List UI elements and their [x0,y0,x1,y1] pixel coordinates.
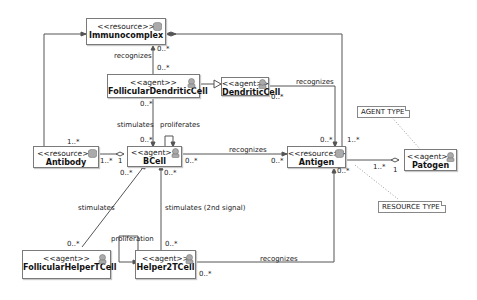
association-label: recognizes [229,146,267,154]
class-name: FollicularDendriticCell [108,87,199,97]
multiplicity: 0..* [165,240,177,248]
association-label: recognizes [296,78,334,86]
multiplicity: 1 [393,166,397,174]
database-icon [153,22,162,31]
agent-icon [185,254,194,264]
class-follicular-helper-t-cell[interactable]: <<agent>> FollicularHelperTCell [22,250,111,279]
database-icon [88,149,97,158]
class-antibody[interactable]: <<resource>> Antibody [33,146,99,168]
multiplicity: 0..* [157,45,169,53]
class-follicular-dendritic-cell[interactable]: <<agent>> FollicularDendriticCell [107,74,200,98]
stereotype: <<agent>> [23,254,110,263]
multiplicity: 0..* [199,270,211,278]
class-name: Helper2TCell [136,263,195,273]
class-dendritic-cell[interactable]: <<agent>> DendriticCell [221,77,269,96]
association-label: stimulates [117,121,154,129]
class-helper2-t-cell[interactable]: <<agent>> Helper2TCell [135,250,196,279]
multiplicity: 0..* [164,169,176,177]
class-name: Antibody [34,158,98,168]
association-label: recognizes [260,255,298,263]
multiplicity: 1..* [347,136,359,144]
note-agent-type: AGENT TYPE [357,106,410,118]
class-name: Patogen [405,161,456,171]
agent-icon [258,79,267,89]
note-resource-type: RESOURCE TYPE [378,201,446,213]
multiplicity: 0..* [67,240,79,248]
class-antigen[interactable]: <<resource>> Antigen [287,146,346,168]
stereotype: <<agent>> [108,78,199,87]
agent-icon [446,152,455,162]
class-name: FollicularHelperTCell [23,263,110,273]
multiplicity: 1..* [67,138,79,146]
multiplicity: 1 [118,157,122,165]
association-label: stimulates [78,204,115,212]
class-bcell[interactable]: <<agent>> BCell [127,146,182,167]
multiplicity: 0..* [271,93,283,101]
class-patogen[interactable]: <<agent>> Patogen [404,149,457,171]
multiplicity: 0..* [271,157,283,165]
multiplicity: 0..* [185,157,197,165]
class-name: Immunocomplex [87,31,165,41]
multiplicity: 0..* [320,136,332,144]
association-label: recognizes [114,52,152,60]
class-name: BCell [128,157,181,167]
multiplicity: 0..* [140,100,152,108]
database-icon [335,149,344,158]
association-label: proliferates [160,121,200,129]
multiplicity: 0..* [120,169,132,177]
class-immunocomplex[interactable]: <<resource>> Immunocomplex [86,18,166,45]
multiplicity: 0..* [140,136,152,144]
agent-icon [171,148,180,158]
multiplicity: 1..* [373,163,385,171]
multiplicity: 0..* [337,167,349,175]
association-label: stimulates (2nd signal) [165,204,245,212]
multiplicity: 0..* [157,64,169,72]
agent-icon [98,254,107,264]
agent-icon [187,78,196,88]
association-label: proliferation [111,235,154,243]
class-name: DendriticCell [222,88,268,98]
multiplicity: 1..* [100,157,112,165]
